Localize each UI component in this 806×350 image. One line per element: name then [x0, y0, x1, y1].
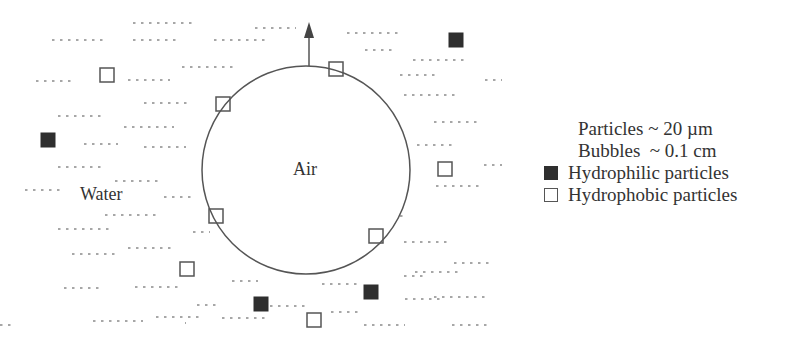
hydrophobic-particle — [100, 68, 114, 82]
hydrophobic-particle — [438, 162, 452, 176]
hydrophilic-particle — [364, 285, 378, 299]
rise-arrow-icon — [304, 22, 314, 66]
hydrophobic-text: Hydrophobic particles — [568, 184, 737, 206]
particle-size-text: Particles ~ 20 µm — [578, 118, 713, 140]
open-square-icon — [544, 188, 558, 202]
hydrophobic-particle — [180, 262, 194, 276]
legend: Particles ~ 20 µm Bubbles ~ 0.1 cm Hydro… — [540, 118, 737, 206]
air-label: Air — [293, 159, 317, 179]
filled-square-icon — [544, 166, 558, 180]
legend-bubble-size: Bubbles ~ 0.1 cm — [540, 140, 737, 162]
legend-particle-size: Particles ~ 20 µm — [540, 118, 737, 140]
hydrophilic-particle — [449, 33, 463, 47]
bubble-size-text: Bubbles ~ 0.1 cm — [578, 140, 717, 162]
water-label: Water — [80, 184, 123, 204]
hydrophobic-particle — [307, 313, 321, 327]
hydrophilic-particle — [254, 297, 268, 311]
legend-hydrophilic: Hydrophilic particles — [540, 162, 737, 184]
hydrophilic-text: Hydrophilic particles — [568, 162, 729, 184]
hydrophilic-particle — [41, 133, 55, 147]
legend-hydrophobic: Hydrophobic particles — [540, 184, 737, 206]
